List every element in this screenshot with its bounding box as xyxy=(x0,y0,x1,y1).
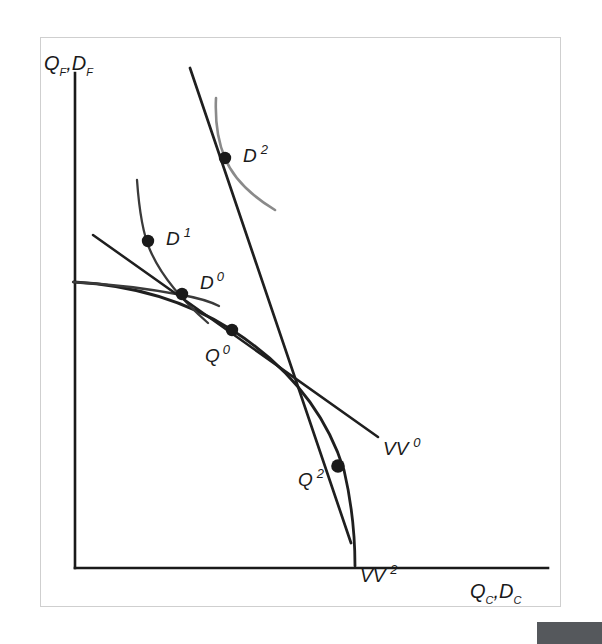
economics-plot: QF,DF QC,DC D2 D1 D0 Q0 Q2 VV0 xyxy=(0,0,602,644)
point-marker-q0 xyxy=(226,324,238,336)
curve-label-vv0-sup: 0 xyxy=(413,435,421,450)
point-marker-q2 xyxy=(331,459,345,473)
curve-label-vv0: VV0 xyxy=(383,435,421,459)
point-label-d2-sup: 2 xyxy=(260,142,269,157)
point-label-d2: D2 xyxy=(243,142,269,166)
figure-root: QF,DF QC,DC D2 D1 D0 Q0 Q2 VV0 xyxy=(0,0,602,644)
y-axis-label: QF,DF xyxy=(44,52,94,78)
axis-group xyxy=(75,73,548,568)
point-label-q2-sup: 2 xyxy=(316,466,325,481)
budget-line-vv0 xyxy=(93,235,378,437)
x-axis-label-q-sub: C xyxy=(486,594,494,606)
point-label-q0-sup: 0 xyxy=(223,342,231,357)
point-label-d1-base: D xyxy=(166,228,180,249)
curve-label-vv2-base: VV xyxy=(360,565,388,586)
point-label-d0: D0 xyxy=(200,269,225,293)
point-label-d0-sup: 0 xyxy=(217,269,225,284)
curve-label-vv2: VV2 xyxy=(360,562,398,586)
point-marker-d2 xyxy=(219,152,231,164)
x-axis-label-d-sub: C xyxy=(514,594,522,606)
y-axis-label-d-sub: F xyxy=(86,66,94,78)
point-label-d1: D1 xyxy=(166,225,191,249)
point-marker-d1 xyxy=(142,235,154,247)
x-axis-label: QC,DC xyxy=(470,580,522,606)
production-possibility-frontier-curve xyxy=(74,282,355,566)
point-label-d1-sup: 1 xyxy=(184,225,191,240)
curve-label-vv0-base: VV xyxy=(383,438,411,459)
point-label-q2-base: Q xyxy=(298,469,313,490)
point-label-q0-base: Q xyxy=(205,345,220,366)
y-axis-label-q: Q xyxy=(44,52,60,74)
curve-label-vv2-sup: 2 xyxy=(389,562,398,577)
point-label-d2-base: D xyxy=(243,145,257,166)
footer-decorative-bar xyxy=(537,622,602,644)
point-marker-d0 xyxy=(176,288,188,300)
y-axis-label-d: D xyxy=(72,52,86,74)
x-axis-label-d: D xyxy=(499,580,513,602)
x-axis-label-q: Q xyxy=(470,580,486,602)
point-label-q0: Q0 xyxy=(205,342,231,366)
point-label-d0-base: D xyxy=(200,272,214,293)
budget-line-vv2 xyxy=(190,68,351,543)
point-label-q2: Q2 xyxy=(298,466,325,490)
